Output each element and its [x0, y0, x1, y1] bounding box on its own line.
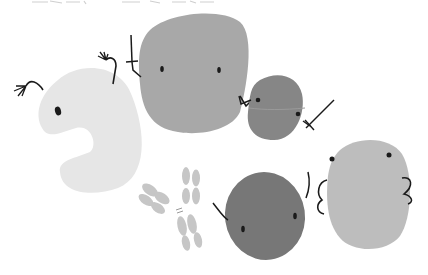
eye-icon: [160, 66, 164, 72]
eye-icon: [293, 213, 297, 219]
eye-icon: [217, 67, 221, 73]
clipped-text-strokes: [32, 1, 214, 4]
arm-icon: [26, 82, 43, 90]
light-oval-blob: [318, 140, 412, 249]
sword-icon: [303, 100, 334, 130]
arm-icon: [306, 172, 309, 198]
arm-icon: [318, 180, 327, 214]
large-gray-blob: [126, 14, 252, 134]
illustration: [0, 0, 428, 275]
dark-round-blob: [213, 167, 311, 265]
eye-icon: [296, 112, 301, 117]
eye-icon: [256, 98, 261, 103]
eye-icon: [387, 153, 392, 158]
pale-crescent-blob: [14, 52, 142, 193]
antibody-icon: [136, 167, 203, 252]
eye-icon: [330, 157, 335, 162]
sword-icon: [126, 35, 141, 77]
eye-icon: [241, 226, 245, 232]
small-dark-blob: [239, 75, 334, 140]
